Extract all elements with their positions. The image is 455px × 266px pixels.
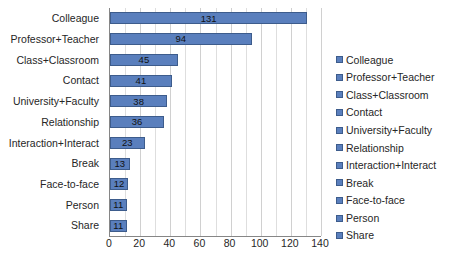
legend-swatch-icon bbox=[336, 56, 343, 63]
legend-label: Contact bbox=[346, 107, 382, 118]
value-tick-label: 0 bbox=[106, 238, 112, 249]
bar-row: 94 bbox=[110, 29, 321, 50]
category-label: Contact bbox=[0, 70, 104, 91]
legend-label: Professor+Teacher bbox=[346, 72, 434, 83]
bar-value-label: 131 bbox=[201, 14, 217, 24]
legend-swatch-icon bbox=[336, 215, 343, 222]
bar-value-label: 12 bbox=[114, 179, 125, 189]
bar-row: 41 bbox=[110, 70, 321, 91]
bar[interactable]: 13 bbox=[110, 158, 130, 170]
category-label: Person bbox=[0, 195, 104, 216]
legend-swatch-icon bbox=[336, 144, 343, 151]
category-label: Face-to-face bbox=[0, 174, 104, 195]
category-label: Interaction+Interact bbox=[0, 132, 104, 153]
legend-item[interactable]: Person bbox=[336, 209, 454, 227]
legend-swatch-icon bbox=[336, 179, 343, 186]
category-label: Break bbox=[0, 153, 104, 174]
legend-item[interactable]: Relationship bbox=[336, 139, 454, 157]
category-axis: ColleagueProfessor+TeacherClass+Classroo… bbox=[0, 8, 104, 236]
legend-swatch-icon bbox=[336, 74, 343, 81]
category-label: University+Faculty bbox=[0, 91, 104, 112]
bar[interactable]: 23 bbox=[110, 137, 145, 149]
legend-label: Break bbox=[346, 178, 373, 189]
bar[interactable]: 94 bbox=[110, 33, 252, 45]
bar-row: 23 bbox=[110, 132, 321, 153]
bar-value-label: 36 bbox=[132, 117, 143, 127]
bar[interactable]: 41 bbox=[110, 75, 172, 87]
legend-item[interactable]: Professor+Teacher bbox=[336, 69, 454, 87]
legend-item[interactable]: Contact bbox=[336, 104, 454, 122]
legend-item[interactable]: University+Faculty bbox=[336, 121, 454, 139]
bar-value-label: 94 bbox=[176, 34, 187, 44]
bar-row: 11 bbox=[110, 215, 321, 236]
bar-row: 11 bbox=[110, 195, 321, 216]
bar-row: 12 bbox=[110, 174, 321, 195]
bar[interactable]: 36 bbox=[110, 116, 164, 128]
bar-value-label: 41 bbox=[136, 76, 147, 86]
legend-item[interactable]: Break bbox=[336, 174, 454, 192]
category-label: Class+Classroom bbox=[0, 49, 104, 70]
bar-row: 38 bbox=[110, 91, 321, 112]
legend-label: Class+Classroom bbox=[346, 90, 429, 101]
bar-chart: ColleagueProfessor+TeacherClass+Classroo… bbox=[0, 0, 455, 266]
legend-swatch-icon bbox=[336, 232, 343, 239]
plot-area: 13194454138362313121111 bbox=[109, 8, 321, 237]
legend-label: University+Faculty bbox=[346, 125, 432, 136]
bar-value-label: 13 bbox=[115, 159, 126, 169]
legend-swatch-icon bbox=[336, 91, 343, 98]
legend: ColleagueProfessor+TeacherClass+Classroo… bbox=[336, 51, 454, 245]
legend-item[interactable]: Class+Classroom bbox=[336, 86, 454, 104]
bar-row: 13 bbox=[110, 153, 321, 174]
value-axis: 020406080100120140 bbox=[109, 238, 320, 254]
value-tick-label: 120 bbox=[281, 238, 299, 249]
legend-swatch-icon bbox=[336, 197, 343, 204]
value-tick-label: 20 bbox=[133, 238, 145, 249]
bar[interactable]: 131 bbox=[110, 12, 307, 24]
value-tick-label: 60 bbox=[194, 238, 206, 249]
legend-item[interactable]: Colleague bbox=[336, 51, 454, 69]
plot-wrapper: ColleagueProfessor+TeacherClass+Classroo… bbox=[0, 0, 330, 266]
legend-label: Interaction+Interact bbox=[346, 160, 436, 171]
bar-value-label: 38 bbox=[133, 97, 144, 107]
legend-label: Face-to-face bbox=[346, 195, 405, 206]
value-tick-label: 100 bbox=[251, 238, 269, 249]
category-label: Relationship bbox=[0, 112, 104, 133]
legend-item[interactable]: Interaction+Interact bbox=[336, 157, 454, 175]
gridline bbox=[321, 8, 322, 236]
bar-value-label: 11 bbox=[113, 200, 123, 210]
value-tick-label: 140 bbox=[311, 238, 329, 249]
legend-label: Relationship bbox=[346, 143, 404, 154]
legend-item[interactable]: Share bbox=[336, 227, 454, 245]
legend-label: Colleague bbox=[346, 55, 393, 66]
category-label: Professor+Teacher bbox=[0, 29, 104, 50]
legend-item[interactable]: Face-to-face bbox=[336, 192, 454, 210]
bar-row: 131 bbox=[110, 8, 321, 29]
bar-row: 36 bbox=[110, 112, 321, 133]
bar-value-label: 11 bbox=[113, 221, 123, 231]
bar-row: 45 bbox=[110, 49, 321, 70]
legend-swatch-icon bbox=[336, 127, 343, 134]
bar[interactable]: 11 bbox=[110, 199, 127, 211]
value-tick-label: 80 bbox=[224, 238, 236, 249]
bar[interactable]: 45 bbox=[110, 54, 178, 66]
legend-label: Person bbox=[346, 213, 379, 224]
bar-series: 13194454138362313121111 bbox=[110, 8, 321, 236]
legend-swatch-icon bbox=[336, 109, 343, 116]
bar[interactable]: 11 bbox=[110, 220, 127, 232]
bar-value-label: 23 bbox=[122, 138, 133, 148]
bar[interactable]: 38 bbox=[110, 95, 167, 107]
bar[interactable]: 12 bbox=[110, 178, 128, 190]
bar-value-label: 45 bbox=[139, 55, 150, 65]
category-label: Colleague bbox=[0, 8, 104, 29]
category-label: Share bbox=[0, 215, 104, 236]
legend-label: Share bbox=[346, 230, 374, 241]
value-tick-label: 40 bbox=[163, 238, 175, 249]
legend-swatch-icon bbox=[336, 162, 343, 169]
